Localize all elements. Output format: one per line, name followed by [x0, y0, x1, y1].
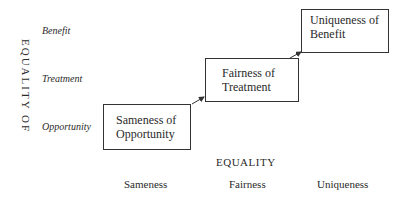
x-level-sameness: Sameness — [124, 178, 167, 190]
x-level-fairness: Fairness — [229, 178, 266, 190]
x-level-uniqueness: Uniqueness — [317, 178, 368, 190]
arrows — [0, 0, 404, 198]
arrow-icon — [290, 52, 301, 58]
arrow-icon — [192, 97, 204, 104]
x-axis-title: EQUALITY — [216, 156, 276, 168]
